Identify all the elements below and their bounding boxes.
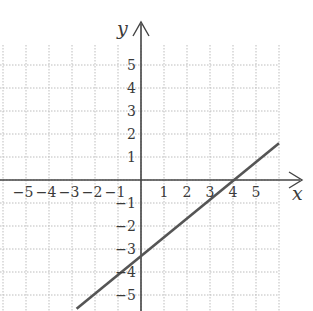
x-tick-label: 1 bbox=[160, 184, 169, 200]
y-tick-label: −5 bbox=[115, 287, 136, 303]
x-tick-label: 4 bbox=[229, 184, 238, 200]
y-tick-label: 3 bbox=[127, 103, 136, 119]
x-tick-label: −5 bbox=[13, 184, 34, 200]
y-tick-label: −1 bbox=[115, 195, 136, 211]
y-tick-label: 4 bbox=[127, 80, 136, 96]
y-tick-label: 5 bbox=[127, 57, 136, 73]
y-tick-label: −3 bbox=[115, 241, 136, 257]
x-tick-label: 5 bbox=[252, 184, 261, 200]
x-tick-label: −4 bbox=[36, 184, 57, 200]
coordinate-plane: −5−4−3−2−11234554321−1−2−3−4−5 x y bbox=[0, 0, 313, 311]
y-tick-label: −2 bbox=[115, 218, 136, 234]
y-tick-label: 2 bbox=[127, 126, 136, 142]
series-line bbox=[77, 143, 279, 309]
x-axis-label: x bbox=[292, 182, 303, 204]
y-tick-label: 1 bbox=[127, 149, 136, 165]
x-tick-label: 2 bbox=[183, 184, 192, 200]
y-axis-label: y bbox=[116, 17, 128, 39]
x-tick-label: 3 bbox=[206, 184, 215, 200]
x-tick-label: −2 bbox=[82, 184, 103, 200]
y-tick-label: −4 bbox=[115, 264, 136, 280]
x-tick-label: −3 bbox=[59, 184, 80, 200]
